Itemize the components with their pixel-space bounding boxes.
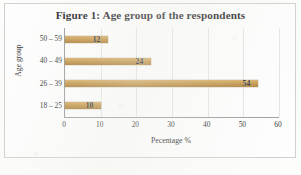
bar-value-label: 12 (93, 35, 101, 44)
bar-row: 12 (65, 28, 279, 50)
bar-row: 10 (65, 95, 279, 117)
x-axis-title: Pecentage % (64, 136, 278, 145)
x-axis-tick-label: 0 (53, 120, 75, 129)
bar (65, 80, 258, 87)
gridline (279, 28, 280, 117)
figure-page: Figure 1: Age group of the respondents A… (0, 0, 301, 175)
chart-plot-wrapper: Age group 18 – 2526 – 3940 – 4950 – 59 1… (0, 0, 292, 155)
y-axis-tick-label: 18 – 25 (16, 101, 62, 110)
x-axis-tick-label: 50 (231, 120, 253, 129)
y-axis-tick-label: 50 – 59 (16, 34, 62, 43)
y-axis-tick-label: 26 – 39 (16, 79, 62, 88)
bar-value-label: 24 (136, 57, 144, 66)
x-axis-tick-label: 20 (124, 120, 146, 129)
x-axis-tick-label: 10 (89, 120, 111, 129)
bar-row: 54 (65, 73, 279, 95)
plot-area: 10542412 (64, 28, 279, 118)
y-axis-tick-label: 40 – 49 (16, 56, 62, 65)
x-axis-tick-label: 60 (267, 120, 289, 129)
bar (65, 102, 101, 109)
bar-value-label: 10 (86, 101, 94, 110)
x-axis-tick-label: 30 (160, 120, 182, 129)
x-axis-tick-label: 40 (196, 120, 218, 129)
bar (65, 36, 108, 43)
bar-row: 24 (65, 50, 279, 72)
bar-value-label: 54 (243, 79, 251, 88)
